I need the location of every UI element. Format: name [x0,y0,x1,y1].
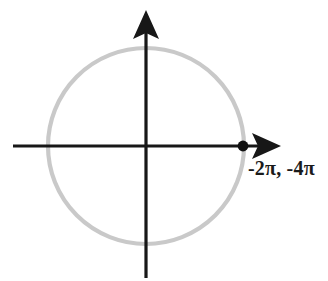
marked-point-dot [238,141,249,152]
diagram-canvas: -2π, -4π [0,0,328,281]
point-label: -2π, -4π [248,157,315,179]
unit-circle-figure: -2π, -4π [0,0,328,281]
